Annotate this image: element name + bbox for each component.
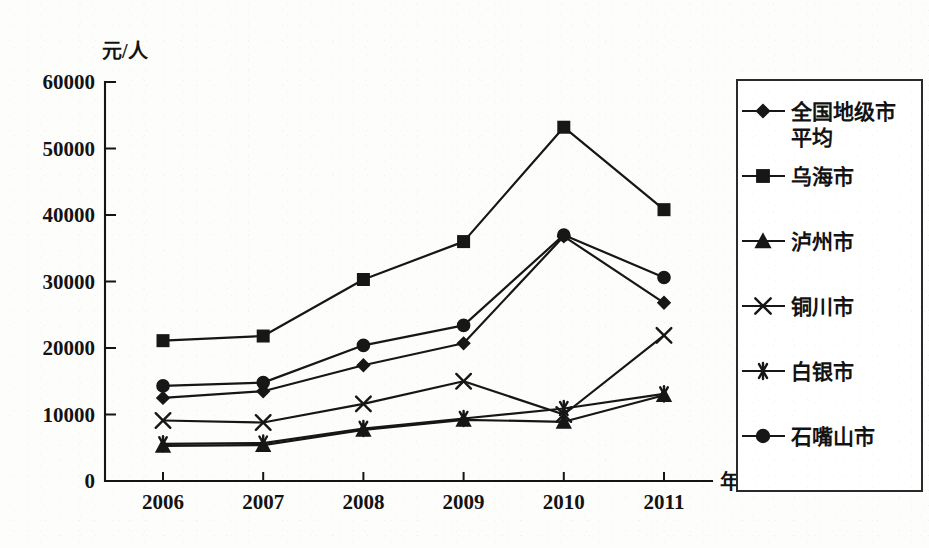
- legend-item-label: 石嘴山市: [790, 425, 875, 449]
- series-polyline: [163, 235, 664, 386]
- circle-marker: [257, 376, 269, 388]
- circle-marker: [757, 430, 770, 443]
- cross-marker: [456, 374, 471, 389]
- square-marker: [658, 204, 670, 216]
- y-axis-tick-label: 50000: [43, 137, 96, 161]
- x-axis-tick-label: 2008: [342, 490, 384, 514]
- circle-marker: [658, 271, 670, 283]
- series-polyline: [163, 394, 664, 444]
- circle-marker: [157, 380, 169, 392]
- square-marker: [558, 121, 570, 133]
- circle-marker: [357, 339, 369, 351]
- series-polyline: [163, 127, 664, 341]
- legend-item-label: 乌海市: [791, 165, 854, 189]
- square-marker: [358, 274, 370, 286]
- legend-item-label: 泸州市: [791, 230, 854, 254]
- y-axis-tick-label: 30000: [43, 270, 96, 294]
- x-axis-tick-label: 2007: [242, 490, 284, 514]
- x-axis-tick-label: 2009: [443, 490, 485, 514]
- series-polyline: [163, 395, 664, 446]
- y-axis-tick-label: 20000: [43, 336, 96, 360]
- y-axis-tick-label: 60000: [43, 70, 96, 94]
- y-axis-unit-label: 元/人: [102, 40, 149, 62]
- legend-item-label: 铜川市: [791, 295, 854, 319]
- x-axis-tick-label: 2006: [142, 490, 184, 514]
- series-4: [159, 386, 668, 451]
- chart-legend: 全国地级市平均乌海市泸州市铜川市白银市石嘴山市: [737, 80, 922, 491]
- series-0: [157, 230, 670, 404]
- axis-layer: 0100002000030000400005000060000200620072…: [43, 40, 762, 514]
- square-marker: [458, 236, 470, 248]
- legend-item-label: 白银市: [791, 360, 854, 384]
- series-1: [157, 121, 670, 346]
- x-axis-tick-label: 2011: [644, 490, 685, 514]
- diamond-marker: [157, 392, 169, 404]
- y-axis-tick-label: 10000: [43, 403, 96, 427]
- diamond-marker: [357, 359, 369, 371]
- y-axis-tick-label: 0: [85, 469, 96, 493]
- circle-marker: [458, 319, 470, 331]
- series-layer: [156, 121, 672, 452]
- cross-marker: [657, 328, 672, 343]
- line-chart: 0100002000030000400005000060000200620072…: [0, 0, 929, 548]
- circle-marker: [558, 229, 570, 241]
- square-marker: [757, 170, 769, 182]
- y-axis-tick-label: 40000: [43, 203, 96, 227]
- x-axis-tick-label: 2010: [543, 490, 585, 514]
- chart-page: 0100002000030000400005000060000200620072…: [0, 0, 929, 548]
- square-marker: [257, 330, 269, 342]
- square-marker: [157, 335, 169, 347]
- diamond-marker: [658, 297, 670, 309]
- series-5: [157, 229, 670, 392]
- series-polyline: [163, 335, 664, 422]
